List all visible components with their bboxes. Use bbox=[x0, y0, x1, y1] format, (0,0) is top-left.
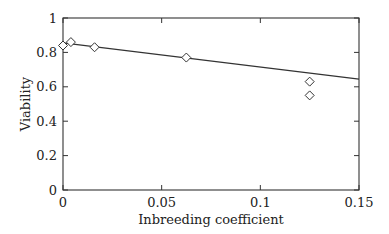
y-axis-ticks: 00.20.40.60.81 bbox=[36, 11, 359, 198]
diamond-marker bbox=[182, 53, 191, 62]
y-tick-label: 0.8 bbox=[36, 45, 57, 60]
diamond-marker bbox=[305, 77, 314, 86]
plot-border bbox=[63, 18, 359, 190]
x-tick-label: 0.05 bbox=[147, 195, 176, 210]
regression-line bbox=[63, 43, 359, 79]
y-tick-label: 0.4 bbox=[36, 114, 57, 129]
x-tick-label: 0.1 bbox=[250, 195, 271, 210]
fit-line bbox=[63, 43, 359, 79]
diamond-marker bbox=[90, 43, 99, 52]
diamond-marker bbox=[305, 91, 314, 100]
x-tick-label: 0.15 bbox=[345, 195, 374, 210]
y-tick-label: 0.2 bbox=[36, 148, 57, 163]
x-tick-label: 0 bbox=[59, 195, 67, 210]
plot-frame bbox=[63, 18, 359, 190]
y-axis-label: Viability bbox=[18, 76, 33, 132]
y-tick-label: 1 bbox=[49, 11, 57, 26]
y-tick-label: 0 bbox=[49, 183, 57, 198]
x-axis-label: Inbreeding coefficient bbox=[138, 212, 284, 227]
x-axis-ticks: 00.050.10.15 bbox=[59, 18, 374, 210]
scatter-chart: 00.20.40.60.81 00.050.10.15 Inbreeding c… bbox=[0, 0, 389, 234]
y-tick-label: 0.6 bbox=[36, 79, 57, 94]
